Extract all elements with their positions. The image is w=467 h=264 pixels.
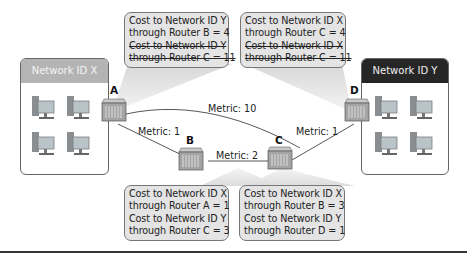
callout-router-d: Cost to Network ID X through Router C = …	[240, 12, 346, 68]
metric-label-b-c: Metric: 2	[216, 150, 258, 161]
computer-icon	[408, 130, 436, 158]
callout-line: through Router C = 4	[245, 27, 341, 39]
callout-router-c: Cost to Network ID X through Router B = …	[239, 185, 345, 241]
router-label-c: C	[275, 134, 283, 146]
computer-icon	[65, 94, 93, 122]
callout-router-b: Cost to Network ID X through Router A = …	[124, 185, 229, 241]
callout-line: through Router B = 4	[129, 27, 224, 39]
bottom-rule	[0, 251, 467, 253]
callout-line-struck: through Router C = 11	[129, 52, 224, 64]
callout-line: Cost to Network ID Y	[244, 213, 340, 225]
callout-line: Cost to Network ID Y	[129, 213, 224, 225]
metric-label-c-d: Metric: 1	[296, 126, 338, 137]
callout-line: through Router B = 3	[244, 200, 340, 212]
callout-line: Cost to Network ID X	[245, 15, 341, 27]
network-x-label: Network ID X	[21, 59, 108, 83]
metric-label-a-c: Metric: 10	[208, 103, 256, 114]
callout-line-struck: Cost to Network ID X	[245, 40, 341, 52]
callout-router-a: Cost to Network ID Y through Router B = …	[124, 12, 229, 68]
callout-line-struck: through Router C = 11	[245, 52, 341, 64]
callout-line: through Router A = 1	[129, 200, 224, 212]
computer-icon	[408, 94, 436, 122]
router-icon-a	[101, 98, 127, 122]
callout-line: Cost to Network ID X	[244, 188, 340, 200]
computer-icon	[65, 130, 93, 158]
router-icon-c	[267, 146, 293, 170]
computer-icon	[373, 94, 401, 122]
router-icon-b	[178, 147, 204, 171]
callout-line: through Router D = 1	[244, 225, 340, 237]
network-y-label: Network ID Y	[362, 59, 448, 83]
metric-label-a-b: Metric: 1	[138, 126, 180, 137]
router-label-b: B	[186, 134, 194, 146]
callout-line: Cost to Network ID Y	[129, 15, 224, 27]
router-icon-d	[344, 98, 370, 122]
computer-icon	[30, 94, 58, 122]
computer-icon	[30, 130, 58, 158]
computer-icon	[373, 130, 401, 158]
callout-line: Cost to Network ID X	[129, 188, 224, 200]
callout-line-struck: Cost to Network ID Y	[129, 40, 224, 52]
router-label-a: A	[110, 84, 118, 96]
router-label-d: D	[350, 84, 359, 96]
callout-d-pointer	[244, 64, 352, 112]
callout-line: through Router C = 3	[129, 225, 224, 237]
callout-c-pointer	[246, 168, 355, 186]
